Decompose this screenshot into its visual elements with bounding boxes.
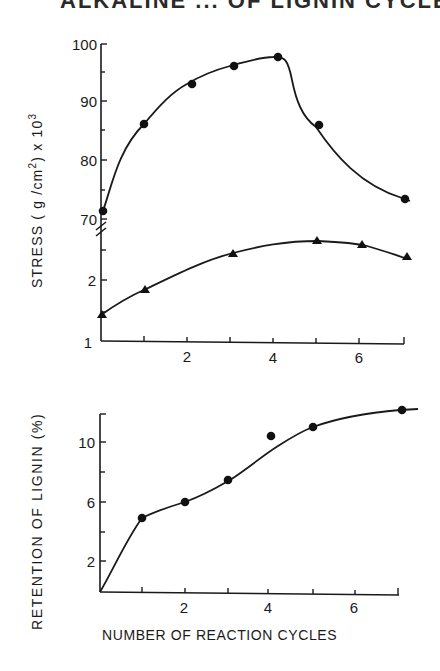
lignin-x-tick-2: 2 — [180, 599, 188, 616]
stress-tick-100: 100 — [72, 36, 97, 53]
figure: 100 90 80 70 2 1 2 4 6 STRESS ( g /cm2) … — [0, 0, 440, 671]
lignin-tick-10: 10 — [78, 434, 95, 451]
stress-x-tick-2: 2 — [183, 348, 191, 365]
lignin-y-label: RETENTION OF LIGNIN (%) — [29, 413, 45, 630]
lignin-tick-2: 2 — [87, 553, 95, 570]
stress-x-tick-6: 6 — [355, 349, 363, 366]
stress-tick-1: 1 — [84, 334, 92, 351]
stress-tick-70: 70 — [80, 211, 97, 228]
stress-tick-2: 2 — [88, 272, 96, 289]
x-axis-label: NUMBER OF REACTION CYCLES — [102, 627, 337, 643]
stress-lower-curve — [101, 241, 408, 315]
lignin-x-tick-4: 4 — [264, 599, 272, 616]
lignin-x-axis — [100, 592, 399, 595]
stress-upper-markers — [99, 53, 410, 216]
stress-upper-curve — [103, 57, 410, 211]
lignin-x-tick-6: 6 — [350, 599, 358, 616]
stress-tick-90: 90 — [80, 93, 97, 110]
stress-x-tick-4: 4 — [269, 349, 277, 366]
lignin-curve — [100, 409, 418, 592]
lignin-panel: 10 6 2 2 4 6 RETENTION OF LIGNIN (%) NUM… — [29, 406, 418, 643]
stress-tick-80: 80 — [80, 152, 97, 169]
stress-upper-ticks — [101, 44, 107, 312]
stress-y-label: STRESS ( g /cm2) x 103 — [27, 113, 45, 288]
lignin-tick-6: 6 — [87, 494, 95, 511]
lignin-y-ticks — [100, 414, 106, 561]
stress-panel: 100 90 80 70 2 1 2 4 6 STRESS ( g /cm2) … — [27, 36, 412, 366]
